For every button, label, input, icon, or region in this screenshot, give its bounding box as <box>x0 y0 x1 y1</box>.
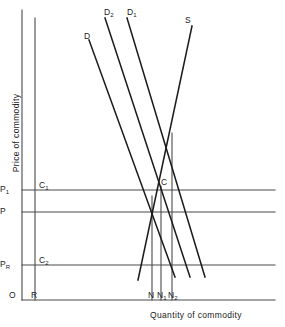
curve-label-d2: D2 <box>104 8 113 17</box>
x-tick-label-n: N <box>148 291 154 300</box>
point-label-c2: C2 <box>39 256 48 265</box>
curve-label-d1: D1 <box>127 8 136 17</box>
x-tick-label-n2: N2 <box>168 291 177 300</box>
subscript: 1 <box>6 189 9 195</box>
y-tick-label-p: P <box>0 207 6 216</box>
subscript: 1 <box>45 185 48 191</box>
supply-demand-figure: Price of commodity Quantity of commodity… <box>0 0 285 327</box>
subscript: 1 <box>163 295 166 301</box>
curve-label-d: D <box>84 32 90 41</box>
curve-label-s: S <box>185 16 191 25</box>
subscript: 2 <box>110 12 113 18</box>
x-axis-title: Quantity of commodity <box>150 310 242 320</box>
chart-canvas <box>0 0 285 327</box>
subscript: 2 <box>174 295 177 301</box>
x-tick-label-n1: N1 <box>157 291 166 300</box>
subscript: R <box>6 264 10 270</box>
origin-label: O <box>9 291 16 300</box>
y-axis-title: Price of commodity <box>11 79 21 187</box>
curve-S <box>138 26 192 280</box>
point-label-c: C <box>161 178 167 187</box>
x-tick-label-r: R <box>31 291 37 300</box>
y-tick-label-p1: P1 <box>0 185 9 194</box>
y-tick-label-pr: PR <box>0 260 10 269</box>
point-label-c1: C1 <box>39 181 48 190</box>
axis-lines-group <box>22 10 275 300</box>
curves-group <box>89 18 205 280</box>
curve-D <box>89 40 175 277</box>
subscript: 2 <box>45 260 48 266</box>
subscript: 1 <box>133 12 136 18</box>
